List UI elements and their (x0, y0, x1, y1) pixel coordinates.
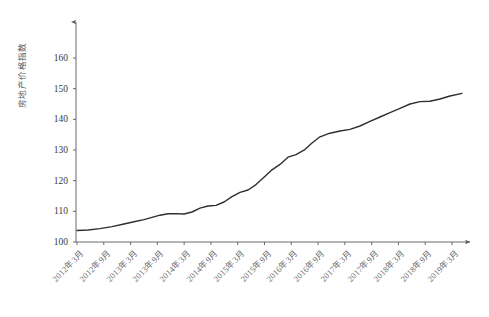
chart-plot-area (0, 0, 489, 317)
chart-root: 房地产价格指数 100110120130140150160 2012年3月201… (0, 0, 489, 317)
data-series-line (77, 93, 462, 230)
